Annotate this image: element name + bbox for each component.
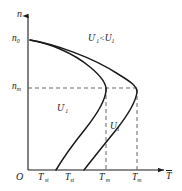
curve-label-u1: U1	[110, 122, 120, 132]
x-tick-tm: Tm	[132, 173, 142, 183]
plot-canvas	[0, 0, 182, 191]
y-axis-label: n	[17, 9, 22, 19]
x-tick-tst: Tst	[65, 173, 74, 183]
y-tick-n0: n0	[12, 34, 20, 44]
inequality-annotation: U′1<U1	[88, 34, 115, 44]
x-tick-tst-prime: T′st	[38, 173, 49, 183]
x-axis-label: T	[166, 170, 172, 182]
y-tick-nm: nm	[12, 82, 21, 92]
origin-label: O	[16, 172, 23, 182]
speed-torque-figure: n T O n0 nm T′st Tst T′m Tm U′1 U1 U′1<U…	[0, 0, 182, 191]
curve-label-u1-prime: U′1	[57, 104, 68, 114]
x-tick-tm-prime: T′m	[99, 173, 110, 183]
curve-u1	[30, 40, 137, 170]
